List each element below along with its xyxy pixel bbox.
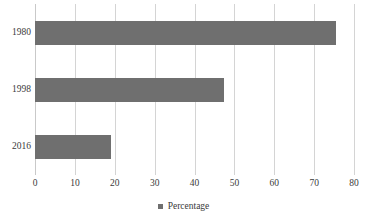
bar-1998 [35, 78, 224, 102]
bar-chart: 198019982016 01020304050607080 Percentag… [0, 0, 367, 222]
x-axis-tick-20: 20 [102, 178, 128, 189]
x-axis-tick-40: 40 [182, 178, 208, 189]
gridline-80 [354, 4, 355, 175]
chart-legend: Percentage [0, 201, 367, 212]
x-axis-tick-10: 10 [62, 178, 88, 189]
y-axis-label-1998: 1998 [2, 84, 31, 95]
bar-1980 [35, 21, 336, 45]
x-axis-tick-70: 70 [301, 178, 327, 189]
y-axis-label-1980: 1980 [2, 27, 31, 38]
x-axis-tick-30: 30 [142, 178, 168, 189]
x-axis-tick-60: 60 [261, 178, 287, 189]
x-axis-tick-80: 80 [341, 178, 367, 189]
y-axis-label-2016: 2016 [2, 141, 31, 152]
legend-label: Percentage [168, 201, 210, 212]
plot-area [35, 4, 354, 175]
x-axis-tick-0: 0 [22, 178, 48, 189]
bar-2016 [35, 135, 111, 159]
x-axis-tick-50: 50 [221, 178, 247, 189]
legend-swatch-icon [158, 204, 163, 209]
